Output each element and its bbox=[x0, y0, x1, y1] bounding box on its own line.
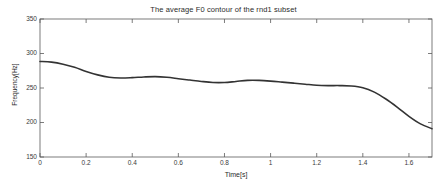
x-axis-label: Time[s] bbox=[40, 171, 432, 178]
x-tick-label: 1.4 bbox=[358, 160, 367, 167]
x-tick-label: 0.6 bbox=[174, 160, 183, 167]
x-tick-label: 1.6 bbox=[404, 160, 413, 167]
x-tick-label: 0.2 bbox=[82, 160, 91, 167]
x-tick-label: 1 bbox=[269, 160, 273, 167]
x-tick-label: 0 bbox=[38, 160, 42, 167]
x-tick-label: 0.4 bbox=[128, 160, 137, 167]
x-tick-label: 1.2 bbox=[312, 160, 321, 167]
x-tick-label: 0.8 bbox=[220, 160, 229, 167]
chart-figure: The average F0 contour of the rnd1 subse… bbox=[0, 0, 447, 186]
x-axis-tick-labels: 00.20.40.60.811.21.41.6 bbox=[0, 0, 447, 186]
y-axis-label: Frequency[Hz] bbox=[11, 45, 18, 125]
